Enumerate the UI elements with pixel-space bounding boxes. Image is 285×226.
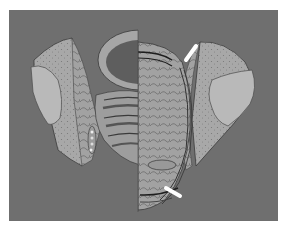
left-hip-bone	[31, 38, 100, 166]
organ-right-half	[138, 42, 192, 210]
vessel-cluster	[88, 126, 96, 154]
right-hip-bone	[182, 42, 255, 170]
pelvis-cross-section-illustration	[9, 10, 278, 221]
illustration-panel	[9, 10, 278, 221]
